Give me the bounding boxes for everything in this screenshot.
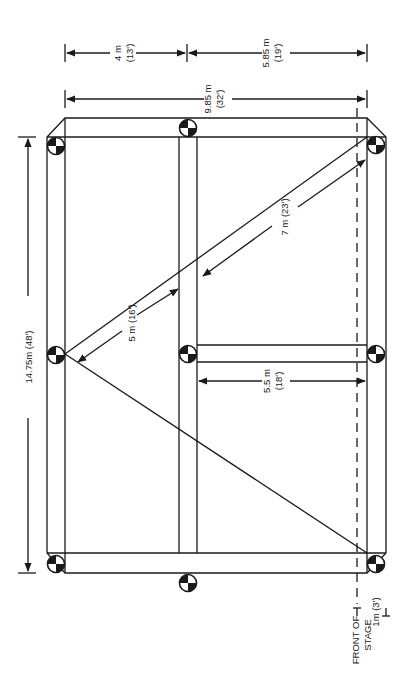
label-cross-beam-imperial: (18')	[273, 372, 284, 391]
hoist-icon	[48, 556, 65, 573]
hoist-icon	[48, 138, 65, 155]
hoist-icon	[180, 575, 197, 592]
label-width-metric: 9.85 m	[202, 84, 213, 113]
label-front-of-stage-2: STAGE	[362, 619, 373, 651]
hoist-icon	[48, 347, 65, 364]
dimension-top-spans	[65, 44, 367, 62]
hoist-points	[48, 120, 385, 592]
hoist-icon	[180, 120, 197, 137]
label-front-of-stage-1: FRONT OF	[350, 616, 361, 665]
label-top-right-metric: 5.85 m	[260, 38, 271, 67]
label-top-left-imperial: (13')	[124, 44, 135, 63]
label-cross-beam-metric: 5.5 m	[261, 369, 272, 393]
label-diagonal-short: 5 m (16')	[126, 304, 137, 341]
hoist-icon	[368, 556, 385, 573]
label-top-left-metric: 4 m	[112, 45, 123, 61]
hoist-icon	[368, 346, 385, 363]
truss-cross-beam	[197, 345, 367, 362]
hoist-icon	[180, 346, 197, 363]
label-top-right-imperial: (19')	[272, 44, 283, 63]
label-width-imperial: (32')	[214, 90, 225, 109]
truss-plan-diagram: 4 m (13') 5.85 m (19') 9.85 m (32') 14.7…	[0, 0, 416, 691]
label-length: 14.75m (48')	[23, 330, 34, 383]
label-diagonal-long: 7 m (23')	[279, 198, 290, 235]
hoist-icon	[368, 137, 385, 154]
